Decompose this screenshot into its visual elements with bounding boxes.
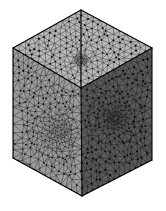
mesh-canvas <box>0 0 166 211</box>
figure-caption <box>0 201 166 211</box>
mesh-figure <box>0 0 166 211</box>
